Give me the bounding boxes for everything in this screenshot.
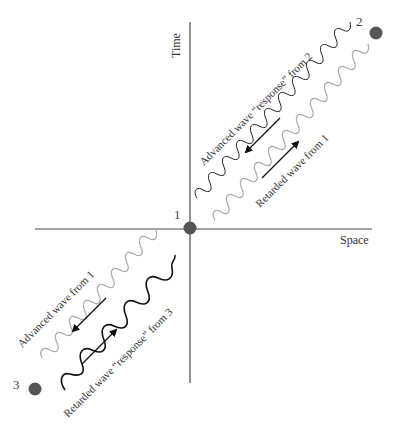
- event-point-1: [184, 222, 197, 235]
- event-point-3: [29, 383, 42, 396]
- events: 1 2 3: [13, 14, 383, 396]
- upper-wave-group: Advanced wave “response” from 2 Retarded…: [195, 22, 368, 220]
- spacetime-diagram: Time Space Advanced wave “response” from…: [0, 0, 399, 425]
- label-retarded-response-from-3: Retarded wave “response” from 3: [61, 305, 175, 419]
- label-retarded-from-1: Retarded wave from 1: [253, 132, 331, 210]
- advanced-arrow-lower: [73, 298, 106, 331]
- space-axis-label: Space: [340, 233, 369, 247]
- axes: Time Space: [35, 22, 372, 383]
- event-label-1: 1: [174, 207, 181, 222]
- advanced-response-wave-from-2: [195, 22, 350, 198]
- event-point-2: [370, 27, 383, 40]
- retarded-arrow-lower: [82, 330, 116, 364]
- label-advanced-response-from-2: Advanced wave “response” from 2: [197, 50, 314, 167]
- event-label-3: 3: [13, 377, 20, 392]
- event-label-2: 2: [356, 14, 363, 29]
- time-axis-label: Time: [169, 33, 183, 58]
